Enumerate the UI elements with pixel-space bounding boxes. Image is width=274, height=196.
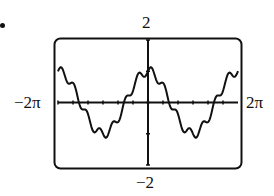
graph-window — [0, 0, 274, 196]
axes — [58, 40, 238, 165]
